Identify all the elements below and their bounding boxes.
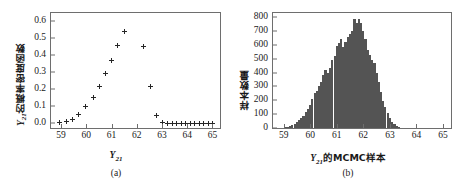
panel-a: Y21的概率密度函数 0.00.10.20.30.40.50.659606162… xyxy=(0,0,232,193)
x-tick-label: 61 xyxy=(332,131,342,141)
scatter-point xyxy=(97,84,102,89)
plot-inner-b xyxy=(273,13,451,128)
y-axis-title-a: Y21的概率密度函数 xyxy=(14,16,28,126)
x-tick-mark xyxy=(112,124,113,128)
figure-container: Y21的概率密度函数 0.00.10.20.30.40.50.659606162… xyxy=(0,0,464,193)
x-tick-label: 59 xyxy=(279,131,289,141)
x-axis-title-b: Y21的MCMC样本 xyxy=(232,150,464,166)
x-axis-title-b-cjk: 的MCMC样本 xyxy=(323,152,386,163)
y-tick-mark xyxy=(273,44,277,45)
y-tick-label: 100 xyxy=(254,109,273,119)
scatter-point xyxy=(64,119,69,124)
plot-inner-a xyxy=(51,13,220,128)
scatter-point xyxy=(91,95,96,100)
panel-b-caption: (b) xyxy=(232,168,464,178)
x-tick-mark xyxy=(337,124,338,128)
scatter-point xyxy=(154,113,159,118)
scatter-point xyxy=(76,112,81,117)
x-tick-label: 65 xyxy=(208,131,218,141)
x-tick-label: 60 xyxy=(305,131,315,141)
y-tick-label: 200 xyxy=(254,96,273,106)
x-tick-label: 59 xyxy=(56,131,66,141)
y-tick-mark xyxy=(273,31,277,32)
y-tick-mark xyxy=(51,55,55,56)
x-tick-mark xyxy=(86,124,87,128)
y-tick-label: 0 xyxy=(263,123,273,133)
y-tick-label: 400 xyxy=(254,68,273,78)
y-tick-label: 600 xyxy=(254,40,273,50)
scatter-point xyxy=(70,117,75,122)
x-tick-label: 60 xyxy=(82,131,92,141)
y-axis-title-b: 样本数量 xyxy=(238,30,252,110)
y-tick-mark xyxy=(51,122,55,123)
x-tick-mark xyxy=(61,124,62,128)
x-tick-label: 61 xyxy=(107,131,117,141)
panel-a-caption: (a) xyxy=(0,168,232,178)
scatter-point xyxy=(103,71,108,76)
x-tick-mark xyxy=(390,124,391,128)
y-tick-mark xyxy=(51,38,55,39)
y-tick-mark xyxy=(51,72,55,73)
x-axis-title-a: Y21 xyxy=(0,150,232,163)
y-tick-label: 0.4 xyxy=(34,51,51,61)
y-tick-mark xyxy=(51,21,55,22)
x-tick-label: 64 xyxy=(412,131,422,141)
plot-area-a: 0.00.10.20.30.40.50.659606162636465 xyxy=(50,12,221,129)
y-tick-label: 300 xyxy=(254,82,273,92)
x-tick-mark xyxy=(284,124,285,128)
x-tick-mark xyxy=(137,124,138,128)
x-tick-label: 65 xyxy=(438,131,448,141)
y-tick-label: 0.2 xyxy=(34,84,51,94)
y-tick-mark xyxy=(51,89,55,90)
scatter-point xyxy=(122,29,127,34)
panel-b: 样本数量 01002003004005006007008005960616263… xyxy=(232,0,464,193)
y-tick-mark xyxy=(273,86,277,87)
x-tick-label: 63 xyxy=(385,131,395,141)
plot-area-b: 010020030040050060070080059606162636465 xyxy=(272,12,452,129)
scatter-point xyxy=(83,104,88,109)
y-tick-mark xyxy=(273,100,277,101)
x-tick-mark xyxy=(363,124,364,128)
y-axis-title-a-var: Y21 xyxy=(16,113,26,126)
scatter-point xyxy=(109,58,114,63)
y-tick-label: 800 xyxy=(254,12,273,22)
scatter-point xyxy=(115,43,120,48)
y-tick-label: 700 xyxy=(254,26,273,36)
y-axis-title-a-cjk: 的概率密度函数 xyxy=(15,43,26,113)
histogram-bar xyxy=(398,127,400,128)
x-tick-mark xyxy=(187,124,188,128)
y-tick-mark xyxy=(273,114,277,115)
x-tick-label: 63 xyxy=(157,131,167,141)
y-tick-mark xyxy=(273,17,277,18)
scatter-point xyxy=(148,84,153,89)
x-tick-mark xyxy=(212,124,213,128)
y-tick-label: 0.0 xyxy=(34,118,51,128)
x-tick-mark xyxy=(416,124,417,128)
x-tick-mark xyxy=(162,124,163,128)
x-tick-label: 64 xyxy=(182,131,192,141)
y-tick-label: 0.3 xyxy=(34,67,51,77)
scatter-point xyxy=(141,44,146,49)
y-tick-label: 500 xyxy=(254,54,273,64)
x-tick-mark xyxy=(443,124,444,128)
x-tick-label: 62 xyxy=(132,131,142,141)
x-tick-label: 62 xyxy=(359,131,369,141)
y-tick-label: 0.6 xyxy=(34,17,51,27)
y-tick-label: 0.5 xyxy=(34,34,51,44)
x-tick-mark xyxy=(310,124,311,128)
y-tick-mark xyxy=(273,58,277,59)
y-tick-mark xyxy=(273,72,277,73)
y-tick-mark xyxy=(51,106,55,107)
y-tick-label: 0.1 xyxy=(34,101,51,111)
y-tick-mark xyxy=(273,128,277,129)
